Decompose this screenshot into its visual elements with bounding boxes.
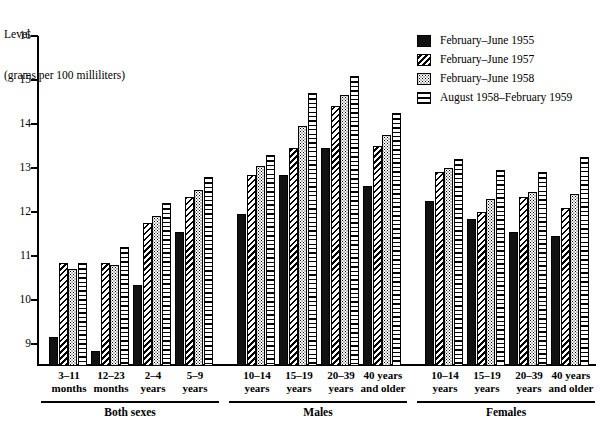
- x-category-label: 40 yearsand older: [542, 369, 600, 395]
- bar: [256, 166, 265, 366]
- bar: [528, 192, 537, 366]
- y-tick-label: 14: [20, 118, 32, 130]
- bar: [363, 186, 372, 366]
- bar: [340, 95, 349, 366]
- bar: [78, 263, 87, 366]
- y-tick-mark: [31, 255, 38, 257]
- x-category-label: 5–9years: [166, 369, 224, 395]
- y-tick-mark: [31, 299, 38, 301]
- y-tick-mark: [31, 343, 38, 345]
- bar: [551, 236, 560, 366]
- hemoglobin-level-bar-chart: Level (grams per 100 milliliters) 910111…: [0, 0, 600, 432]
- section-label: Females: [417, 405, 595, 419]
- legend-swatch-stipple-dots: [417, 73, 431, 85]
- legend-item: February–June 1957: [417, 50, 572, 69]
- bar: [538, 172, 547, 366]
- x-category-label-line: 5–9: [166, 369, 224, 382]
- legend-label: February–June 1958: [440, 73, 534, 85]
- legend-label: August 1958–February 1959: [440, 92, 572, 104]
- bar: [509, 232, 518, 366]
- bar: [101, 263, 110, 366]
- y-tick-mark: [31, 167, 38, 169]
- bar: [496, 170, 505, 366]
- bar: [185, 197, 194, 366]
- bar: [308, 93, 317, 366]
- x-axis-category-labels: 3–11months12–23months2–4years5–9years10–…: [37, 369, 596, 409]
- bar: [120, 247, 129, 366]
- legend-item: August 1958–February 1959: [417, 88, 572, 107]
- bar: [152, 216, 161, 366]
- bar: [454, 159, 463, 366]
- x-category-label-line: 40 years: [354, 369, 412, 382]
- bar: [561, 208, 570, 366]
- legend-item: February–June 1958: [417, 69, 572, 88]
- bar: [194, 190, 203, 366]
- bar: [247, 175, 256, 366]
- bar: [68, 269, 77, 366]
- bar: [444, 168, 453, 366]
- bar: [91, 351, 100, 366]
- legend-label: February–June 1955: [440, 35, 534, 47]
- y-tick-label: 15: [20, 74, 32, 86]
- section-rule: [229, 401, 407, 403]
- bar: [580, 157, 589, 366]
- bar: [133, 285, 142, 366]
- bar: [266, 155, 275, 366]
- bar: [435, 172, 444, 366]
- bar: [204, 177, 213, 366]
- bar: [486, 199, 495, 366]
- bar: [298, 126, 307, 366]
- y-tick-mark: [31, 79, 38, 81]
- bar: [321, 148, 330, 366]
- legend-label: February–June 1957: [440, 54, 534, 66]
- bar: [175, 232, 184, 366]
- y-tick-label: 10: [20, 294, 32, 306]
- x-category-label-line: 40 years: [542, 369, 600, 382]
- y-tick-mark: [31, 123, 38, 125]
- bar: [350, 76, 359, 366]
- bar: [477, 212, 486, 366]
- bar: [570, 194, 579, 366]
- bar: [519, 197, 528, 366]
- bar: [279, 175, 288, 366]
- bar: [110, 265, 119, 366]
- x-category-label-line: and older: [354, 382, 412, 395]
- section-label: Both sexes: [41, 405, 219, 419]
- bar: [237, 214, 246, 366]
- legend-swatch-diagonal-hatch: [417, 54, 431, 66]
- legend-item: February–June 1955: [417, 31, 572, 50]
- section-rule: [417, 401, 595, 403]
- y-tick-label: 16: [20, 30, 32, 42]
- bar: [392, 113, 401, 366]
- bar: [49, 337, 58, 366]
- legend: February–June 1955February–June 1957Febr…: [417, 31, 572, 107]
- y-axis-tick-labels: 910111213141516: [0, 36, 33, 366]
- bar: [382, 135, 391, 366]
- y-axis-line: [37, 36, 39, 366]
- bar: [143, 223, 152, 366]
- x-category-label-line: and older: [542, 382, 600, 395]
- bar: [59, 263, 68, 366]
- bar: [331, 106, 340, 366]
- bar: [373, 146, 382, 366]
- x-category-label-line: years: [166, 382, 224, 395]
- legend-swatch-horizontal-lines: [417, 92, 431, 104]
- y-tick-mark: [31, 35, 38, 37]
- section-rule: [41, 401, 219, 403]
- y-tick-mark: [31, 211, 38, 213]
- bar: [467, 219, 476, 366]
- bar: [425, 201, 434, 366]
- legend-swatch-solid-black: [417, 35, 431, 47]
- bar: [289, 148, 298, 366]
- y-tick-label: 13: [20, 162, 32, 174]
- y-tick-label: 12: [20, 206, 32, 218]
- bar: [162, 203, 171, 366]
- x-category-label: 40 yearsand older: [354, 369, 412, 395]
- y-tick-label: 11: [20, 250, 31, 262]
- section-label: Males: [229, 405, 407, 419]
